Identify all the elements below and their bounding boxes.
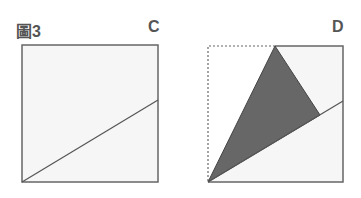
square-c — [22, 45, 158, 182]
figure-canvas — [0, 0, 361, 198]
panel-c — [22, 45, 158, 182]
panel-d — [208, 46, 343, 182]
